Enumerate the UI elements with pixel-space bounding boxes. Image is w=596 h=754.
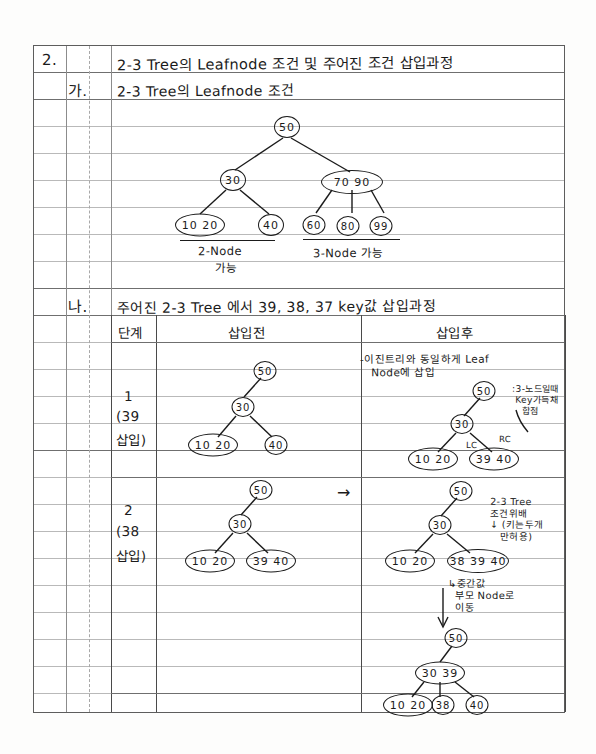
row2-step-key: (38	[116, 523, 140, 539]
row1-after-side-note: :3-노드일때 Key가득채 합점	[512, 384, 559, 417]
row2-after-note2: ↳중간값 부모 Node로 이동	[448, 578, 515, 614]
row2-before-mid: 30	[229, 514, 252, 534]
rule-line	[34, 639, 564, 640]
tree-leaf-node: 80	[337, 216, 360, 236]
row2-transition-arrow: →	[337, 483, 351, 502]
margin-line	[89, 46, 90, 712]
tree-leaf-node: 99	[370, 216, 393, 236]
caption-underline	[180, 240, 275, 241]
caption-3-node: 3-Node 가능	[313, 244, 384, 260]
row1-after-note: -이진트리와 동일하게 Leaf Node에 삽입	[360, 353, 489, 379]
row2-after-leaf: 10 20	[385, 550, 435, 573]
row2-before-leaf: 39 40	[246, 550, 296, 573]
row2-after-side-note: 2-3 Tree 조건위배 ↓ (키는두개 만허용)	[490, 496, 544, 543]
outline-sub-a-title: 2-3 Tree의 Leafnode 조건	[117, 79, 295, 100]
row1-after-leaf: 10 20	[408, 448, 458, 471]
rule-line	[34, 234, 564, 235]
table-col-divider	[565, 315, 566, 712]
rule-line	[34, 180, 564, 181]
tree-node: 30	[220, 169, 246, 191]
row2-before-root: 50	[250, 480, 273, 500]
tree-leaf-node: 10 20	[175, 214, 225, 237]
row2-final-leaf: 40	[466, 695, 489, 715]
rule-line	[34, 99, 564, 100]
outline-sub-a-number: 가.	[68, 79, 88, 100]
row2-final-mid: 30 39	[415, 662, 465, 685]
outline-item-number: 2.	[42, 51, 57, 69]
row1-edge-label-lc: LC	[466, 440, 478, 450]
rule-line	[34, 504, 564, 505]
margin-line	[66, 46, 67, 712]
table-bottom-rule	[111, 693, 564, 694]
row1-step-number: 1	[124, 388, 133, 404]
table-header-rule	[111, 342, 564, 343]
row1-edge-label-rc: RC	[499, 434, 511, 444]
caption-2-node: 2-Node	[198, 244, 242, 258]
row1-step-key2: 삽입)	[116, 429, 147, 449]
row1-after-root: 50	[473, 381, 496, 401]
rule-line	[34, 423, 564, 424]
tree-leaf-node: 60	[303, 215, 326, 235]
rule-line	[34, 261, 564, 262]
row1-before-mid: 30	[232, 397, 255, 417]
rule-line	[34, 288, 564, 289]
table-header-step: 단계	[118, 322, 143, 342]
row2-after-leaf: 38 39 40	[447, 549, 509, 573]
row1-after-mid: 30	[451, 414, 474, 434]
row2-after-mid: 30	[429, 515, 452, 535]
tree-node: 70 90	[321, 170, 383, 194]
caption-2-node-sub: 가능	[215, 259, 238, 275]
row1-step-key: (39	[116, 408, 140, 424]
rule-line	[34, 666, 564, 667]
tree-leaf-node: 40	[258, 214, 284, 236]
table-header-before: 삽입전	[228, 322, 265, 342]
table-col-divider	[156, 315, 157, 712]
row2-after-root: 50	[450, 481, 473, 501]
row1-before-root: 50	[254, 361, 277, 381]
row2-final-root: 50	[445, 628, 468, 648]
rule-line	[34, 531, 564, 532]
row1-after-leaf: 39 40	[469, 448, 519, 471]
caption-underline	[303, 239, 400, 240]
tree-node-root: 50	[274, 116, 300, 138]
row2-before-leaf: 10 20	[185, 550, 235, 573]
table-col-divider	[111, 315, 112, 712]
row2-final-leaf: 10 20	[383, 694, 433, 717]
notebook-page: 2. 2-3 Tree의 Leafnode 조건 및 주어진 조건 삽입과정 가…	[0, 0, 596, 754]
table-header-after: 삽입후	[436, 322, 473, 342]
rule-line	[34, 153, 564, 154]
row2-step-key2: 삽입)	[116, 545, 147, 565]
outline-item-title: 2-3 Tree의 Leafnode 조건 및 주어진 조건 삽입과정	[117, 51, 453, 74]
row1-before-leaf: 40	[265, 435, 288, 455]
outline-sub-b-title: 주어진 2-3 Tree 에서 39, 38, 37 key값 삽입과정	[117, 295, 436, 317]
table-row-rule	[111, 477, 564, 478]
outline-sub-b-number: 나.	[68, 295, 88, 316]
row2-step-number: 2	[124, 502, 133, 518]
rule-line	[34, 207, 564, 208]
row2-final-leaf: 38	[432, 695, 455, 715]
row1-before-leaf: 10 20	[188, 434, 238, 457]
